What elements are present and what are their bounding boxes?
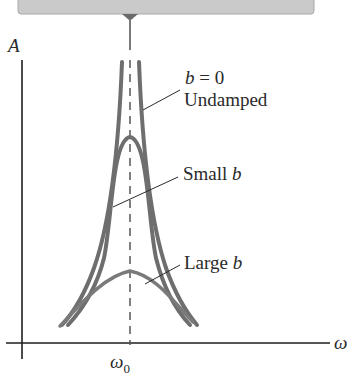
label-b-equals-zero: b = 0 <box>185 68 224 88</box>
label-undamped: Undamped <box>184 90 267 110</box>
var-b: b <box>185 67 195 88</box>
y-axis-label: A <box>8 36 20 56</box>
omega0-label: ω0 <box>110 352 130 379</box>
equals-zero: = 0 <box>195 67 225 88</box>
omega-symbol: ω <box>110 351 123 372</box>
axes <box>6 60 330 359</box>
x-axis-label: ω <box>334 333 347 353</box>
leader-undamped <box>143 90 180 110</box>
label-large-b: Large b <box>184 253 242 273</box>
top-support-bar <box>18 0 314 50</box>
label-small-b: Small b <box>183 164 242 184</box>
small-text: Small <box>183 163 232 184</box>
var-b: b <box>233 252 243 273</box>
omega-subscript: 0 <box>123 361 130 376</box>
var-b: b <box>232 163 242 184</box>
large-text: Large <box>184 252 233 273</box>
